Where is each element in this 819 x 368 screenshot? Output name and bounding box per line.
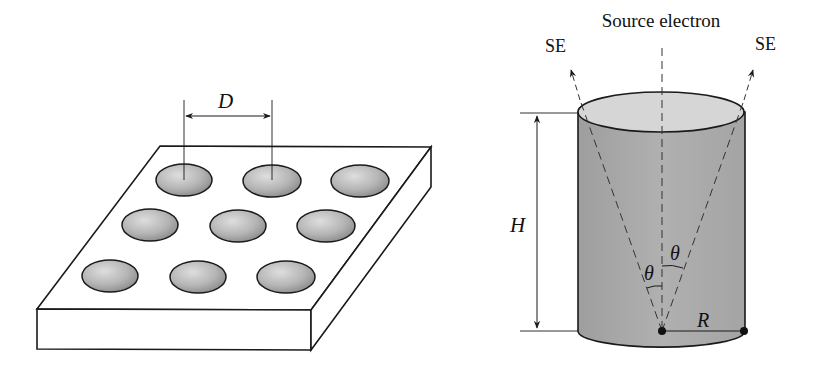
label-se-left: SE [545, 36, 566, 56]
label-theta-left: θ [644, 262, 654, 284]
se-arrow-left [571, 70, 580, 100]
label-source-electron: Source electron [602, 10, 721, 31]
center-point [658, 327, 666, 335]
hole [257, 261, 315, 293]
plate-front-face [37, 309, 311, 350]
hole [170, 261, 226, 293]
label-r: R [696, 309, 709, 331]
label-h: H [509, 213, 527, 237]
cylinder-figure [520, 48, 753, 347]
label-d: D [217, 89, 233, 113]
hole [122, 209, 178, 241]
label-se-right: SE [755, 34, 776, 54]
label-theta-right: θ [670, 242, 680, 264]
hole [331, 165, 389, 197]
edge-point [740, 327, 748, 335]
hole [297, 210, 355, 242]
hole [82, 260, 138, 292]
diagram-canvas: D Source electron SE SE H R θ θ [0, 0, 819, 368]
plate-figure [37, 100, 431, 350]
dimension-h [520, 113, 578, 331]
hole [210, 210, 266, 242]
cylinder-top [578, 92, 744, 132]
se-arrow-right [744, 70, 753, 100]
